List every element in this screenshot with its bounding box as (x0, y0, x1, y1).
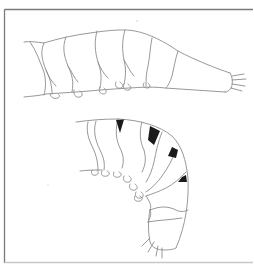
figure-frame (5, 10, 254, 264)
figure-panel (0, 0, 253, 266)
pigment-patches (116, 120, 187, 183)
specks (47, 20, 137, 185)
specimen-curved-view (76, 119, 188, 258)
pigment-patch-3 (168, 147, 178, 158)
specimen-straight-view (24, 30, 246, 98)
pigment-patch-1 (116, 120, 124, 134)
